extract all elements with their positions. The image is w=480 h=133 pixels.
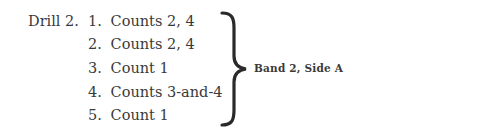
item-number: 1. (88, 13, 106, 29)
list-item: 1. Counts 2, 4 (88, 13, 195, 29)
item-text: Count 1 (111, 60, 169, 76)
item-text: Counts 2, 4 (111, 36, 195, 52)
item-number: 4. (88, 84, 106, 100)
item-text: Count 1 (111, 107, 169, 123)
list-item: 3. Count 1 (88, 60, 169, 76)
item-number: 2. (88, 36, 106, 52)
item-number: 3. (88, 60, 106, 76)
right-brace-icon (214, 10, 250, 128)
list-item: 4. Counts 3-and-4 (88, 84, 223, 100)
item-text: Counts 2, 4 (111, 13, 195, 29)
drill-label: Drill 2. (28, 13, 79, 29)
item-text: Counts 3-and-4 (111, 84, 223, 100)
band-label: Band 2, Side A (254, 62, 343, 74)
item-number: 5. (88, 107, 106, 123)
list-item: 5. Count 1 (88, 107, 169, 123)
list-item: 2. Counts 2, 4 (88, 36, 195, 52)
